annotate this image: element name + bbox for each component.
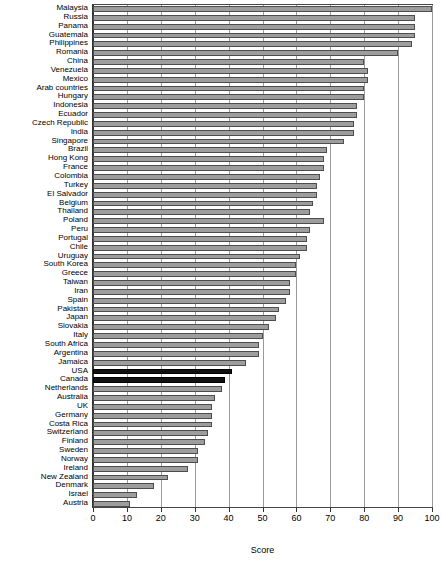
x-tick-50 [263, 508, 264, 512]
bar-canada [93, 377, 225, 383]
bar-south-korea [93, 262, 296, 268]
bar-row [93, 155, 432, 164]
bar-el-salvador [93, 192, 317, 198]
bar-row [93, 40, 432, 49]
bar-row [93, 76, 432, 85]
bar-switzerland [93, 430, 208, 436]
bar-row [93, 208, 432, 217]
bar-south-africa [93, 342, 259, 348]
x-tick-30 [195, 508, 196, 512]
x-tick-90 [398, 508, 399, 512]
bar-guatemala [93, 33, 415, 39]
bar-row [93, 182, 432, 191]
x-tick-label-50: 50 [257, 513, 267, 524]
bar-greece [93, 271, 296, 277]
x-tick-label-10: 10 [122, 513, 132, 524]
bar-row [93, 332, 432, 341]
bar-india [93, 130, 354, 136]
bar-uruguay [93, 254, 300, 260]
bar-row [93, 368, 432, 377]
bar-row [93, 32, 432, 41]
category-label-austria: Austria [63, 499, 88, 508]
bar-uk [93, 404, 212, 410]
x-tick-label-90: 90 [393, 513, 403, 524]
bar-row [93, 120, 432, 129]
bar-row [93, 235, 432, 244]
bar-romania [93, 50, 398, 56]
gridline-100 [432, 5, 433, 507]
x-tick-80 [364, 508, 365, 512]
x-tick-label-0: 0 [90, 513, 95, 524]
x-tick-20 [161, 508, 162, 512]
bar-jamaica [93, 360, 246, 366]
bar-row [93, 138, 432, 147]
bar-new-zealand [93, 475, 168, 481]
bar-row [93, 102, 432, 111]
bar-china [93, 59, 364, 65]
bar-row [93, 270, 432, 279]
x-tick-label-40: 40 [224, 513, 234, 524]
bar-row [93, 438, 432, 447]
bar-row [93, 350, 432, 359]
x-tick-100 [432, 508, 433, 512]
bar-row [93, 49, 432, 58]
bar-row [93, 456, 432, 465]
bar-row [93, 129, 432, 138]
bar-czech-republic [93, 121, 354, 127]
bar-row [93, 323, 432, 332]
bar-row [93, 474, 432, 483]
bar-netherlands [93, 386, 222, 392]
category-axis-labels: MalaysiaRussiaPanamaGuatemalaPhilippines… [0, 4, 90, 508]
bar-row [93, 5, 432, 14]
bar-row [93, 67, 432, 76]
bar-row [93, 376, 432, 385]
x-tick-label-30: 30 [190, 513, 200, 524]
bar-row [93, 173, 432, 182]
bar-row [93, 58, 432, 67]
x-tick-label-60: 60 [291, 513, 301, 524]
bar-mexico [93, 77, 368, 83]
bar-russia [93, 15, 415, 21]
bar-row [93, 403, 432, 412]
bar-row [93, 297, 432, 306]
bar-malaysia [93, 6, 432, 12]
bar-colombia [93, 174, 320, 180]
bar-france [93, 165, 324, 171]
bar-row [93, 146, 432, 155]
bar-poland [93, 218, 324, 224]
bar-row [93, 164, 432, 173]
bar-row [93, 200, 432, 209]
bar-hungary [93, 94, 364, 100]
bar-brazil [93, 147, 327, 153]
bar-australia [93, 395, 215, 401]
bar-germany [93, 413, 212, 419]
bar-row [93, 447, 432, 456]
x-axis: 0102030405060708090100 [92, 508, 433, 528]
bar-taiwan [93, 280, 290, 286]
x-tick-60 [296, 508, 297, 512]
bar-row [93, 261, 432, 270]
bar-peru [93, 227, 310, 233]
bar-row [93, 253, 432, 262]
x-tick-70 [330, 508, 331, 512]
x-tick-40 [229, 508, 230, 512]
bar-italy [93, 333, 263, 339]
bar-row [93, 244, 432, 253]
x-tick-10 [127, 508, 128, 512]
bar-row [93, 394, 432, 403]
bar-ireland [93, 466, 188, 472]
x-tick-label-80: 80 [359, 513, 369, 524]
bar-row [93, 85, 432, 94]
bar-hong-kong [93, 156, 324, 162]
bar-singapore [93, 139, 344, 145]
bar-costa-rica [93, 422, 212, 428]
bar-chile [93, 245, 307, 251]
bar-row [93, 359, 432, 368]
bar-row [93, 412, 432, 421]
bars-layer [93, 5, 432, 507]
bar-sweden [93, 448, 198, 454]
x-tick-label-100: 100 [424, 513, 439, 524]
bar-venezuela [93, 68, 368, 74]
x-tick-0 [93, 508, 94, 512]
bar-row [93, 288, 432, 297]
